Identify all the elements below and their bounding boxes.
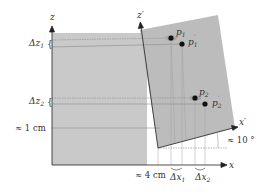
original-region: [52, 33, 147, 165]
point-p1: [168, 35, 173, 40]
z-axis-arrow: [50, 26, 55, 32]
point-p2-prime: [202, 101, 207, 106]
svg-text:Δz2: Δz2: [28, 96, 44, 107]
diagram-canvas: z x z′ x′ p1 p1 ′ p2 p2 ′ Δz1 { Δz2 { ≈ …: [0, 0, 266, 195]
point-p2: [192, 95, 197, 100]
annotation-dx1: Δx1: [169, 168, 185, 183]
z-prime-axis-arrow: [138, 22, 143, 29]
svg-text:{: {: [47, 97, 53, 107]
annotation-dx2: Δx2: [194, 168, 211, 183]
annotation-offset-z: ≈ 1 cm: [15, 123, 46, 133]
svg-text:Δx1: Δx1: [169, 172, 185, 183]
x-axis-label: x: [229, 160, 234, 170]
annotation-dz1: Δz1 {: [28, 38, 53, 49]
annotation-offset-x: ≈ 4 cm: [135, 170, 166, 180]
point-p1-prime: [179, 41, 184, 46]
annotation-angle: ≈ 10 °: [227, 135, 255, 145]
annotation-dz2: Δz2 {: [28, 96, 53, 107]
svg-text:Δx2: Δx2: [194, 172, 211, 183]
z-axis-label: z: [49, 12, 55, 22]
z-prime-axis-label: z′: [136, 10, 144, 20]
x-prime-axis-label: x′: [239, 117, 246, 127]
svg-text:Δz1: Δz1: [28, 38, 44, 49]
x-axis-arrow: [221, 163, 227, 168]
angle-arc: [217, 132, 218, 148]
x-prime-axis-arrow: [232, 126, 239, 131]
svg-text:{: {: [47, 39, 53, 49]
